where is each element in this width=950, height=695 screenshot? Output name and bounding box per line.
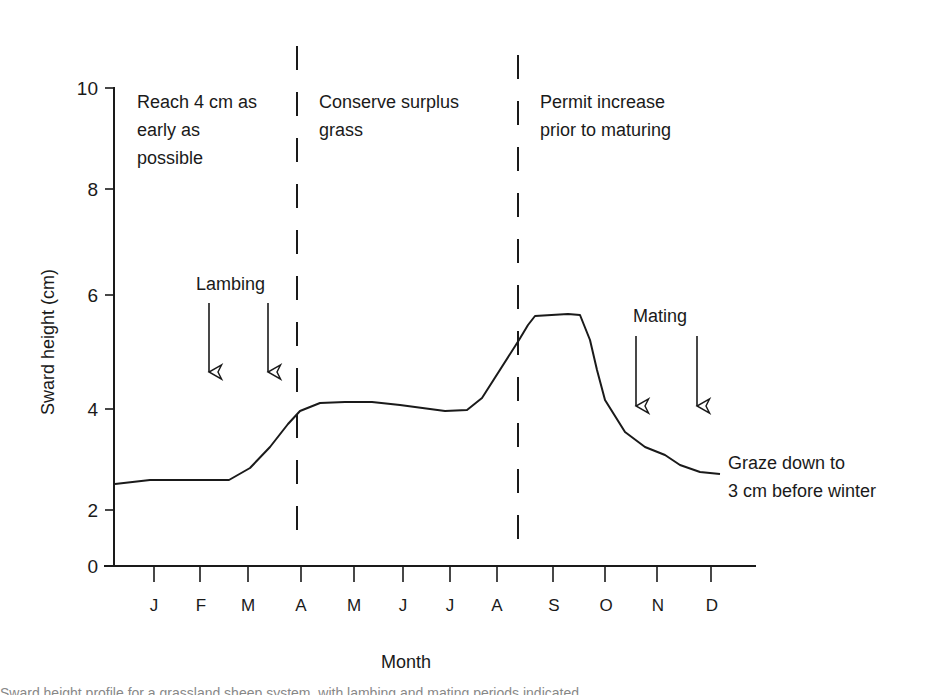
x-ticks <box>154 566 711 582</box>
x-axis-label: Month <box>381 652 431 672</box>
x-tick-label: F <box>196 596 206 615</box>
y-tick-label: 10 <box>77 78 98 99</box>
mating-label: Mating <box>633 306 687 326</box>
period-annotations: Reach 4 cm as early as possible Conserve… <box>137 92 671 168</box>
y-tick-label: 2 <box>87 500 98 521</box>
x-tick-label: N <box>652 596 664 615</box>
x-tick-label: M <box>347 596 361 615</box>
period-2-text: Conserve surplus grass <box>319 92 464 140</box>
period-3-text: Permit increase prior to maturing <box>540 92 671 140</box>
y-axis-label: Sward height (cm) <box>38 269 58 415</box>
y-ticks <box>105 88 114 510</box>
lambing-annotation: Lambing <box>196 274 268 372</box>
x-tick-label: J <box>399 596 408 615</box>
x-tick-label: J <box>150 596 159 615</box>
x-tick-label: D <box>706 596 718 615</box>
sward-height-chart: 10 8 6 4 2 0 J F M A M J J A S O N D Mon… <box>0 0 950 695</box>
x-tick-label: J <box>446 596 455 615</box>
y-tick-label: 6 <box>87 285 98 306</box>
y-tick-label: 4 <box>87 399 98 420</box>
y-tick-label: 0 <box>87 556 98 577</box>
x-tick-label: A <box>295 596 307 615</box>
mating-annotation: Mating <box>633 306 697 406</box>
lambing-label: Lambing <box>196 274 265 294</box>
x-tick-label: O <box>599 596 612 615</box>
period-1-text: Reach 4 cm as early as possible <box>137 92 262 168</box>
x-tick-label: M <box>241 596 255 615</box>
y-tick-labels: 10 8 6 4 2 0 <box>77 78 99 577</box>
x-tick-labels: J F M A M J J A S O N D <box>150 596 718 615</box>
y-tick-label: 8 <box>87 179 98 200</box>
x-tick-label: S <box>548 596 559 615</box>
figure-caption: Sward height profile for a grassland she… <box>0 686 950 695</box>
end-note: Graze down to 3 cm before winter <box>728 453 876 501</box>
sward-height-line <box>115 314 720 484</box>
x-tick-label: A <box>491 596 503 615</box>
